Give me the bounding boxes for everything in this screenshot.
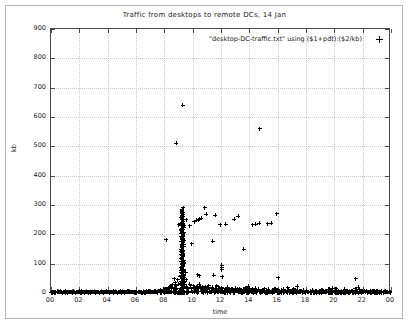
data-point-baseline [191, 291, 194, 294]
data-point-baseline [337, 291, 340, 294]
chart-title: Traffic from desktops to remote DCs, 14 … [0, 11, 409, 19]
data-point-band [237, 215, 240, 218]
x-tick-label: 22 [350, 296, 374, 304]
data-point-band [203, 206, 206, 209]
data-point-burst [180, 262, 183, 265]
x-tick-label: 10 [180, 296, 204, 304]
x-tick-label: 00 [378, 296, 402, 304]
data-point-baseline [309, 291, 312, 294]
data-point-burst [181, 232, 184, 235]
y-tick-label: 100 [2, 259, 46, 267]
scatter-points [51, 29, 389, 291]
data-point-band [200, 217, 203, 220]
data-point-band [233, 218, 236, 221]
data-point-burst [180, 266, 183, 269]
data-point-mid [277, 276, 280, 279]
data-point-baseline [327, 288, 330, 291]
data-point-baseline [343, 288, 346, 291]
data-point-outlier [181, 104, 184, 107]
x-tick-label: 00 [38, 296, 62, 304]
data-point-baseline [154, 291, 157, 294]
data-point-baseline [274, 287, 277, 290]
data-point-band [219, 223, 222, 226]
y-tick-label: 600 [2, 112, 46, 120]
y-tick-label: 400 [2, 171, 46, 179]
data-point-baseline [215, 284, 218, 287]
data-point-mid [185, 278, 188, 281]
data-point-baseline [58, 291, 61, 294]
data-point-mid [354, 277, 357, 280]
x-tick-label: 04 [95, 296, 119, 304]
y-tick-label: 800 [2, 53, 46, 61]
data-point-mid [173, 277, 176, 280]
data-point-baseline [263, 290, 266, 293]
legend-label: "desktop-DC-traffic.txt" using ($1+pdt):… [209, 35, 362, 43]
data-point-baseline [94, 291, 97, 294]
data-point-band [224, 223, 227, 226]
data-point-baseline [199, 285, 202, 288]
x-tick-label: 14 [236, 296, 260, 304]
data-point-baseline [201, 291, 204, 294]
y-tick-label: 700 [2, 83, 46, 91]
data-point-baseline [50, 291, 53, 294]
data-point-mid [242, 248, 245, 251]
data-point-band [275, 212, 278, 215]
data-point-band [214, 214, 217, 217]
data-point-mid [165, 238, 168, 241]
data-point-band [182, 206, 185, 209]
data-point-baseline [357, 291, 360, 294]
data-point-mid [221, 275, 224, 278]
data-point-band [188, 224, 191, 227]
data-point-baseline [147, 291, 150, 294]
data-point-mid [198, 274, 201, 277]
y-tick-label: 0 [2, 288, 46, 296]
data-point-baseline [169, 284, 172, 287]
x-tick-mark [391, 29, 392, 33]
plot-area: "desktop-DC-traffic.txt" using ($1+pdt):… [50, 28, 390, 292]
data-point-band [205, 213, 208, 216]
data-point-baseline [238, 290, 241, 293]
x-axis-tick-labels: 00020406081012141618202200 [50, 296, 390, 308]
data-point-mid [190, 242, 193, 245]
data-point-mid [182, 222, 185, 225]
data-point-baseline [89, 291, 92, 294]
data-point-baseline [167, 290, 170, 293]
data-point-baseline [232, 291, 235, 294]
data-point-baseline [172, 290, 175, 293]
y-axis-title: kb [10, 144, 18, 152]
data-point-band [180, 215, 183, 218]
legend-marker-icon [376, 36, 383, 43]
x-tick-label: 02 [66, 296, 90, 304]
data-point-baseline [280, 291, 283, 294]
data-point-baseline [119, 290, 122, 293]
data-point-baseline [247, 291, 250, 294]
data-point-baseline [196, 286, 199, 289]
data-point-baseline [251, 287, 254, 290]
data-point-band [258, 222, 261, 225]
data-point-burst [180, 286, 183, 289]
data-point-mid [212, 274, 215, 277]
data-point-baseline [360, 291, 363, 294]
data-point-baseline [241, 291, 244, 294]
data-point-baseline [223, 290, 226, 293]
data-point-baseline [302, 290, 305, 293]
data-point-baseline [384, 290, 387, 293]
x-tick-label: 18 [293, 296, 317, 304]
data-point-baseline [197, 290, 200, 293]
data-point-baseline [374, 291, 377, 294]
data-point-burst [180, 246, 183, 249]
data-point-baseline [206, 291, 209, 294]
data-point-outlier [258, 127, 261, 130]
data-point-band [177, 223, 180, 226]
data-point-baseline [213, 289, 216, 292]
x-tick-label: 06 [123, 296, 147, 304]
data-point-baseline [125, 291, 128, 294]
data-point-burst [180, 240, 183, 243]
data-point-burst [182, 274, 185, 277]
data-point-burst [182, 252, 185, 255]
data-point-baseline [314, 289, 317, 292]
data-point-band [270, 222, 273, 225]
data-point-baseline [296, 285, 299, 288]
y-tick-label: 900 [2, 24, 46, 32]
x-tick-label: 08 [151, 296, 175, 304]
